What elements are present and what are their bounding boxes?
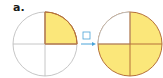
right-arrow-icon — [81, 42, 96, 46]
right-circle — [98, 12, 162, 76]
right-unshaded-quadrant — [98, 12, 130, 44]
answer-box[interactable] — [83, 32, 90, 39]
left-circle — [13, 12, 77, 76]
left-shaded-quadrant — [45, 12, 77, 44]
fraction-diagram — [0, 0, 163, 78]
